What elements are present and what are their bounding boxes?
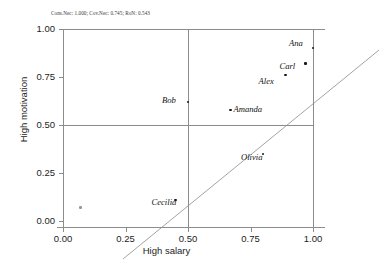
reference-line-h-top [63, 29, 325, 30]
x-tick-label: 0.25 [102, 233, 150, 244]
data-point-carl [304, 62, 306, 64]
point-label-carl: Carl [280, 61, 296, 71]
point-label-bob: Bob [162, 95, 176, 105]
point-label-ana: Ana [289, 38, 303, 48]
x-tick-mark [251, 228, 252, 232]
y-tick-mark [59, 173, 63, 174]
y-tick-mark [59, 221, 63, 222]
y-tick-label: 0.25 [37, 167, 56, 178]
x-tick-label: 0.75 [227, 233, 275, 244]
point-label-cecilia: Cecilia [152, 197, 177, 207]
point-label-alex: Alex [259, 76, 274, 86]
data-point-amanda [229, 109, 231, 111]
y-tick-label: 0.00 [37, 215, 56, 226]
y-tick-label: 1.00 [37, 23, 56, 34]
y-tick-label: 0.50 [37, 119, 56, 130]
x-tick-mark [313, 228, 314, 232]
data-point-alex [284, 74, 286, 76]
y-tick-label: 0.75 [37, 71, 56, 82]
reference-line-v-mid [188, 29, 189, 227]
x-tick-label: 0.50 [164, 233, 212, 244]
x-tick-mark [126, 228, 127, 232]
x-tick-mark [188, 228, 189, 232]
point-label-amanda: Amanda [234, 104, 263, 114]
y-axis-title: High motivation [18, 50, 29, 170]
y-tick: 0.00 [10, 215, 55, 227]
y-tick: 1.00 [10, 23, 55, 35]
x-tick-label: 0.00 [39, 233, 87, 244]
fit-statistics-title: Cons.Nec: 1.000; Cov.Nec: 0.745; RoN: 0.… [51, 10, 150, 16]
x-tick-label: 1.00 [289, 233, 337, 244]
x-axis-title: High salary [0, 245, 333, 256]
x-tick-mark [63, 228, 64, 232]
y-tick-mark [59, 77, 63, 78]
reference-line-v-right [313, 29, 314, 227]
data-point-sofia [79, 206, 81, 208]
point-label-olivia: Olivia [241, 152, 262, 162]
